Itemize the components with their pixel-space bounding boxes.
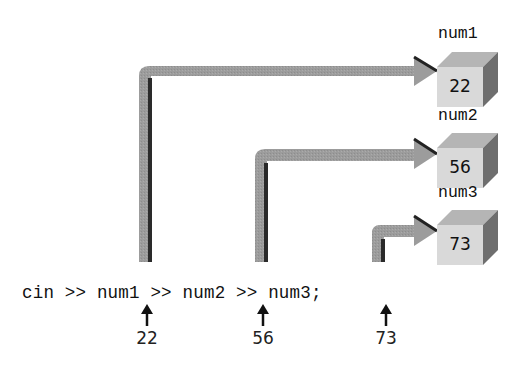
up-arrow-icon	[380, 304, 392, 326]
up-arrow-icon	[141, 304, 153, 326]
cin-statement: cin >> num1 >> num2 >> num3;	[22, 283, 322, 303]
input-value-num2: 56	[243, 328, 283, 348]
input-value-num1: 22	[127, 328, 167, 348]
cin-extraction-diagram: num1 num2 num3 22 56 73 cin >> num1 >> n…	[0, 0, 525, 373]
box-label-num1: num1	[438, 24, 478, 43]
input-value-num3: 73	[366, 328, 406, 348]
box-label-num3: num3	[438, 183, 478, 202]
box-label-num2: num2	[438, 106, 478, 125]
flow-arrow-num3	[372, 216, 437, 262]
flow-arrow-num2	[255, 139, 437, 262]
box-value-num1: 22	[439, 76, 481, 96]
box-value-num3: 73	[439, 234, 481, 254]
box-value-num2: 56	[439, 157, 481, 177]
up-arrow-icon	[257, 304, 269, 326]
